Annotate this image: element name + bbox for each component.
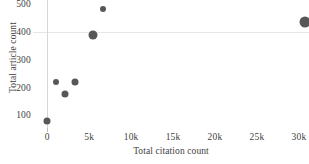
x-axis-title: Total citation count	[33, 146, 309, 157]
y-axis-tick-label: 400	[1, 27, 31, 37]
data-point	[53, 79, 59, 85]
data-point	[88, 30, 97, 39]
x-axis-tick-label: 15k	[153, 132, 193, 143]
plot-area	[33, 0, 309, 128]
x-axis-tick-label: 5k	[69, 132, 109, 143]
scatter-chart: Total article count 100200300400500 Tota…	[0, 0, 309, 164]
x-axis-tick-label: 10k	[111, 132, 151, 143]
data-point	[61, 90, 68, 97]
y-axis-tick-label: 200	[1, 83, 31, 93]
gridline-horizontal	[33, 32, 309, 33]
y-axis-tick-label: 100	[1, 110, 31, 120]
y-axis-tick-label: 500	[1, 0, 31, 9]
x-axis-tick-label: 0	[27, 132, 67, 143]
gridline-vertical	[47, 0, 48, 128]
data-point	[299, 16, 309, 27]
x-axis-tick-label: 30k	[279, 132, 309, 143]
data-point	[100, 6, 106, 12]
data-point	[44, 118, 51, 125]
y-axis-tick-label: 300	[1, 55, 31, 65]
x-axis-tick-label: 25k	[237, 132, 277, 143]
x-axis-tick-label: 20k	[195, 132, 235, 143]
x-axis: Total citation count 05k10k15k20k25k30k	[33, 128, 309, 164]
y-axis-tick-labels: 100200300400500	[0, 0, 31, 128]
data-point	[71, 79, 78, 86]
